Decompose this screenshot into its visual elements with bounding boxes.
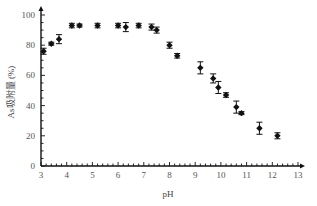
diamond-marker	[123, 24, 129, 30]
y-tick-label: 0	[31, 161, 36, 171]
y-axis-label: As吸附量 (%)	[5, 66, 16, 119]
diamond-marker	[48, 40, 54, 46]
x-tick-label: 6	[116, 170, 121, 180]
ticks: 345678910111213020406080100	[22, 10, 304, 180]
data-point	[123, 23, 129, 32]
diamond-marker	[233, 104, 239, 110]
data-points	[40, 22, 280, 139]
data-point	[48, 40, 54, 46]
y-axis-arrow	[39, 6, 44, 11]
diamond-marker	[76, 22, 82, 28]
data-point	[197, 62, 203, 74]
x-tick-label: 11	[242, 170, 251, 180]
data-point	[153, 27, 159, 33]
x-tick-label: 5	[90, 170, 95, 180]
x-tick-label: 7	[142, 170, 147, 180]
x-tick-label: 10	[216, 170, 226, 180]
data-point	[166, 42, 172, 48]
y-tick-label: 100	[22, 10, 36, 20]
data-point	[274, 133, 280, 139]
x-tick-label: 9	[193, 170, 198, 180]
x-tick-label: 4	[64, 170, 69, 180]
axes	[39, 6, 306, 169]
data-point	[135, 22, 141, 28]
data-point	[238, 110, 244, 116]
data-point	[256, 122, 262, 134]
data-point	[69, 22, 75, 28]
data-point	[94, 22, 100, 28]
y-tick-label: 40	[26, 101, 36, 111]
x-tick-label: 12	[268, 170, 277, 180]
y-tick-label: 60	[26, 70, 36, 80]
y-tick-label: 20	[26, 131, 36, 141]
diamond-marker	[256, 125, 262, 131]
x-axis-label: pH	[163, 189, 175, 199]
diamond-marker	[56, 36, 62, 42]
chart: 345678910111213020406080100 pH As吸附量 (%)	[0, 0, 317, 206]
diamond-marker	[197, 65, 203, 71]
diamond-marker	[238, 110, 244, 116]
diamond-marker	[166, 42, 172, 48]
data-point	[115, 22, 121, 28]
diamond-marker	[153, 27, 159, 33]
y-tick-label: 80	[26, 40, 36, 50]
x-tick-label: 8	[167, 170, 172, 180]
data-point	[56, 35, 62, 44]
x-tick-label: 13	[294, 170, 304, 180]
data-point	[174, 53, 180, 59]
data-point	[76, 22, 82, 28]
diamond-marker	[274, 133, 280, 139]
diamond-marker	[215, 84, 221, 90]
diamond-marker	[210, 75, 216, 81]
x-axis-arrow	[300, 164, 305, 169]
data-point	[223, 92, 229, 98]
x-tick-label: 3	[39, 170, 44, 180]
